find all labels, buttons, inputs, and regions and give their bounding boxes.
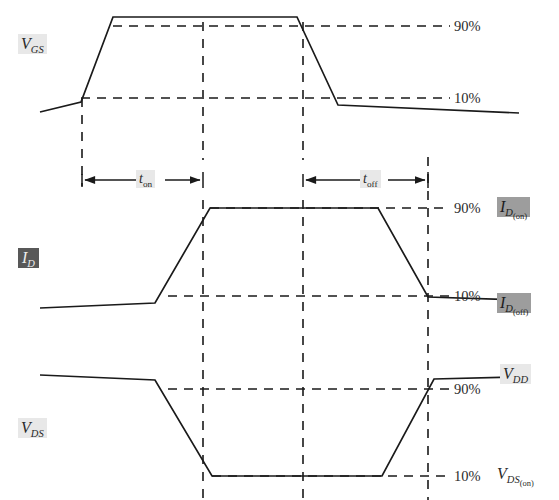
id-off-subsub: (off): [513, 307, 528, 317]
id-off-value-label: ID(off): [497, 295, 531, 312]
id-off-subscript: D: [505, 303, 513, 314]
vds-on-subsub: (on): [520, 478, 534, 488]
vgs-signal-label: VGS: [18, 36, 47, 52]
vds-signal-label: VDS: [18, 420, 47, 436]
vgs-90-percent-label: 90%: [454, 19, 481, 34]
id-trace: [40, 208, 519, 308]
vdd-subscript: DD: [513, 374, 528, 385]
t-on-label: ton: [136, 172, 155, 186]
vgs-waveform-group: [40, 17, 519, 113]
vds-subscript: DS: [31, 428, 44, 439]
vgs-subscript: GS: [31, 44, 44, 55]
id-on-value-label: ID(on): [497, 199, 530, 216]
vdd-value-label: VDD: [500, 366, 531, 382]
id-signal-label: ID: [18, 250, 39, 266]
id-90-percent-label: 90%: [454, 201, 481, 216]
vgs-10-percent-label: 10%: [454, 91, 481, 106]
t-off-subscript: off: [367, 179, 378, 189]
vds-waveform-group: [40, 375, 519, 476]
id-10-percent-label: 10%: [454, 289, 481, 304]
time-reference-lines: [82, 22, 428, 500]
id-waveform-group: [40, 208, 519, 308]
vds-on-subscript: DS: [507, 474, 520, 485]
vds-trace: [40, 375, 519, 476]
vds-90-percent-label: 90%: [454, 382, 481, 397]
id-on-subsub: (on): [513, 211, 527, 221]
id-on-subscript: D: [505, 207, 513, 218]
vds-on-value-label: VDS(on): [497, 466, 534, 483]
t-off-label: toff: [360, 172, 381, 186]
switching-waveform-figure: VGS ID VDS 90% 10% 90% 10% 90% 10% ID(on…: [0, 0, 559, 500]
id-subscript: D: [27, 258, 35, 269]
t-on-subscript: on: [143, 179, 152, 189]
vds-10-percent-label: 10%: [454, 469, 481, 484]
waveform-canvas: [0, 0, 559, 500]
